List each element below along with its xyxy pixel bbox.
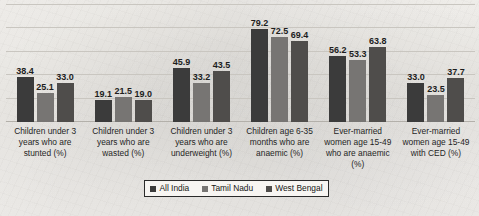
bar-value-label: 53.3 bbox=[349, 49, 367, 59]
category-label: Ever-married women age 15-49 who are ana… bbox=[319, 126, 397, 174]
bar-value-label: 19.0 bbox=[134, 89, 152, 99]
bar-value-label: 19.1 bbox=[94, 89, 112, 99]
legend-item-west-bengal[interactable]: West Bengal bbox=[266, 184, 322, 193]
bar-west-bengal[interactable] bbox=[447, 78, 464, 122]
legend-label-west-bengal: West Bengal bbox=[275, 184, 322, 193]
bar-value-label: 43.5 bbox=[213, 60, 231, 70]
bar-value-label: 72.5 bbox=[271, 26, 289, 36]
bar-group: 33.023.537.7 bbox=[397, 4, 475, 122]
bar-column: 72.5 bbox=[271, 4, 288, 122]
bar-tamil-nadu[interactable] bbox=[193, 83, 210, 122]
category-label: Children under 3 years who are underweig… bbox=[162, 126, 240, 174]
bar-column: 63.8 bbox=[369, 4, 386, 122]
bar-column: 33.0 bbox=[57, 4, 74, 122]
bar-west-bengal[interactable] bbox=[135, 100, 152, 122]
bar-tamil-nadu[interactable] bbox=[349, 60, 366, 122]
bar-value-label: 69.4 bbox=[291, 30, 309, 40]
bar-value-label: 45.9 bbox=[173, 57, 191, 67]
bar-all-india[interactable] bbox=[173, 68, 190, 122]
bar-group: 19.121.519.0 bbox=[84, 4, 162, 122]
legend-label-tamil-nadu: Tamil Nadu bbox=[211, 184, 253, 193]
plot-area: 38.425.133.019.121.519.045.933.243.579.2… bbox=[0, 4, 479, 122]
bar-value-label: 33.0 bbox=[56, 72, 74, 82]
legend-item-tamil-nadu[interactable]: Tamil Nadu bbox=[202, 184, 253, 193]
bar-value-label: 79.2 bbox=[251, 18, 269, 28]
legend-swatch-west-bengal bbox=[266, 186, 272, 192]
grouped-bar-chart: 38.425.133.019.121.519.045.933.243.579.2… bbox=[0, 0, 479, 216]
bar-value-label: 25.1 bbox=[36, 82, 54, 92]
bar-west-bengal[interactable] bbox=[369, 47, 386, 122]
category-label: Children under 3 years who are wasted (%… bbox=[84, 126, 162, 174]
category-label: Ever-married women age 15-49 with CED (%… bbox=[397, 126, 475, 174]
bar-column: 23.5 bbox=[427, 4, 444, 122]
bar-group: 79.272.569.4 bbox=[241, 4, 319, 122]
bar-value-label: 56.2 bbox=[329, 45, 347, 55]
bar-west-bengal[interactable] bbox=[57, 83, 74, 122]
bar-column: 38.4 bbox=[17, 4, 34, 122]
bar-west-bengal[interactable] bbox=[213, 71, 230, 122]
bar-all-india[interactable] bbox=[251, 29, 268, 122]
bar-column: 43.5 bbox=[213, 4, 230, 122]
bar-tamil-nadu[interactable] bbox=[427, 95, 444, 122]
bar-all-india[interactable] bbox=[329, 56, 346, 122]
bar-value-label: 38.4 bbox=[16, 66, 34, 76]
bar-column: 45.9 bbox=[173, 4, 190, 122]
bar-tamil-nadu[interactable] bbox=[271, 37, 288, 122]
bar-value-label: 23.5 bbox=[427, 84, 445, 94]
bar-column: 56.2 bbox=[329, 4, 346, 122]
bar-column: 19.0 bbox=[135, 4, 152, 122]
legend-item-all-india[interactable]: All India bbox=[150, 184, 189, 193]
bar-column: 21.5 bbox=[115, 4, 132, 122]
bar-groups: 38.425.133.019.121.519.045.933.243.579.2… bbox=[6, 4, 475, 122]
bar-column: 69.4 bbox=[291, 4, 308, 122]
bar-west-bengal[interactable] bbox=[291, 41, 308, 122]
legend-label-all-india: All India bbox=[159, 184, 189, 193]
category-labels: Children under 3 years who are stunted (… bbox=[6, 126, 475, 174]
bar-value-label: 63.8 bbox=[369, 36, 387, 46]
chart-legend: All India Tamil Nadu West Bengal bbox=[144, 180, 329, 197]
bar-column: 19.1 bbox=[95, 4, 112, 122]
bar-tamil-nadu[interactable] bbox=[37, 93, 54, 122]
bar-column: 33.0 bbox=[407, 4, 424, 122]
category-label: Children under 3 years who are stunted (… bbox=[6, 126, 84, 174]
bar-all-india[interactable] bbox=[95, 100, 112, 122]
bar-all-india[interactable] bbox=[17, 77, 34, 122]
bar-value-label: 33.0 bbox=[407, 72, 425, 82]
legend-swatch-all-india bbox=[150, 186, 156, 192]
bar-column: 25.1 bbox=[37, 4, 54, 122]
bar-column: 37.7 bbox=[447, 4, 464, 122]
category-label: Children age 6-35 months who are anaemic… bbox=[241, 126, 319, 174]
bar-group: 56.253.363.8 bbox=[319, 4, 397, 122]
bar-group: 38.425.133.0 bbox=[6, 4, 84, 122]
bar-all-india[interactable] bbox=[407, 83, 424, 122]
bar-group: 45.933.243.5 bbox=[162, 4, 240, 122]
bar-column: 33.2 bbox=[193, 4, 210, 122]
legend-swatch-tamil-nadu bbox=[202, 186, 208, 192]
bar-value-label: 37.7 bbox=[447, 67, 465, 77]
bar-column: 53.3 bbox=[349, 4, 366, 122]
bar-value-label: 21.5 bbox=[114, 86, 132, 96]
bar-column: 79.2 bbox=[251, 4, 268, 122]
bar-tamil-nadu[interactable] bbox=[115, 97, 132, 122]
bar-value-label: 33.2 bbox=[193, 72, 211, 82]
